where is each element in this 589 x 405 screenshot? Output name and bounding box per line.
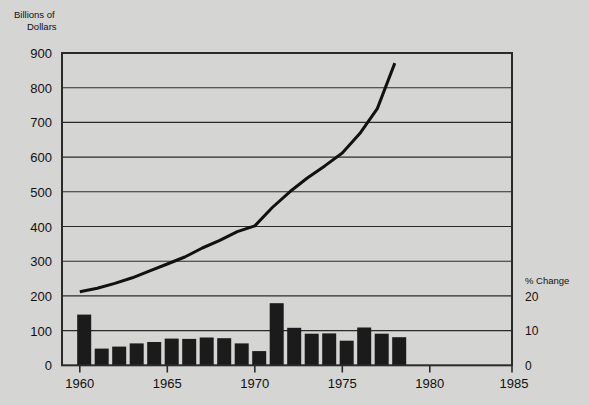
ytick-500: 500 bbox=[30, 185, 52, 200]
bar-1963 bbox=[130, 343, 144, 365]
ytick-300: 300 bbox=[30, 254, 52, 269]
bar-1964 bbox=[147, 342, 161, 365]
y2tick-0: 0 bbox=[525, 359, 532, 373]
bar-1966 bbox=[182, 339, 196, 365]
bar-1968 bbox=[217, 338, 231, 365]
y-axis-unit-label-line2: Dollars bbox=[27, 21, 57, 32]
y2-axis-unit-label: % Change bbox=[525, 275, 569, 286]
y-axis-unit-label-line1: Billions of bbox=[14, 9, 55, 20]
bar-1976 bbox=[357, 328, 371, 366]
xtick-1980: 1980 bbox=[415, 376, 444, 391]
xtick-1985: 1985 bbox=[500, 376, 529, 391]
bar-1973 bbox=[305, 334, 319, 366]
ytick-0: 0 bbox=[45, 358, 52, 373]
bar-1962 bbox=[112, 347, 126, 366]
ytick-600: 600 bbox=[30, 150, 52, 165]
bar-1971 bbox=[270, 303, 284, 365]
bar-1967 bbox=[200, 338, 214, 366]
xtick-1975: 1975 bbox=[328, 376, 357, 391]
bar-1970 bbox=[252, 351, 266, 365]
bar-1969 bbox=[235, 343, 249, 365]
ytick-100: 100 bbox=[30, 324, 52, 339]
xtick-1965: 1965 bbox=[153, 376, 182, 391]
bar-1975 bbox=[340, 341, 354, 366]
bar-1972 bbox=[287, 328, 301, 366]
ytick-900: 900 bbox=[30, 46, 52, 61]
bar-1977 bbox=[375, 334, 389, 366]
xtick-1970: 1970 bbox=[240, 376, 269, 391]
xtick-1960: 1960 bbox=[65, 376, 94, 391]
bar-1965 bbox=[165, 339, 179, 366]
ytick-700: 700 bbox=[30, 115, 52, 130]
economic-growth-chart: Billions of Dollars bbox=[0, 0, 589, 405]
ytick-800: 800 bbox=[30, 81, 52, 96]
bar-1978 bbox=[392, 337, 406, 365]
y2tick-10: 10 bbox=[525, 324, 539, 338]
bar-1961 bbox=[95, 349, 109, 366]
y2tick-20: 20 bbox=[525, 290, 539, 304]
bar-1974 bbox=[322, 333, 336, 365]
ytick-200: 200 bbox=[30, 289, 52, 304]
bar-1960 bbox=[77, 315, 91, 366]
ytick-400: 400 bbox=[30, 220, 52, 235]
chart-container: Billions of Dollars bbox=[0, 0, 589, 405]
